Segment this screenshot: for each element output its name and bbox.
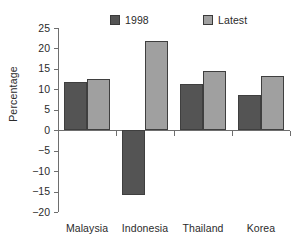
category-tick [116, 131, 117, 136]
legend-swatch-latest [203, 15, 213, 25]
category-tick [290, 131, 291, 136]
y-axis-tick-label: −20 [28, 207, 50, 218]
y-axis-line [58, 28, 59, 212]
y-axis-tick-label: −10 [28, 166, 50, 177]
bar [180, 84, 203, 130]
bar-chart: 1998 Latest Percentage 2520151050−5−10−1… [0, 0, 293, 246]
bar [238, 95, 261, 130]
legend-item-latest: Latest [203, 13, 247, 27]
y-axis-tick-label: 5 [28, 104, 50, 115]
y-axis-tick [54, 212, 58, 213]
y-axis-title: Percentage [7, 44, 19, 144]
y-axis-tick [54, 89, 58, 90]
bar [203, 71, 226, 130]
y-axis-tick-label: 20 [28, 43, 50, 54]
category-label: Malaysia [58, 222, 116, 234]
y-axis-tick-label: −5 [28, 145, 50, 156]
category-tick [174, 131, 175, 136]
y-axis-tick [54, 28, 58, 29]
bar [64, 82, 87, 130]
category-label: Indonesia [116, 222, 174, 234]
legend-swatch-1998 [110, 15, 120, 25]
plot-area: 2520151050−5−10−15−20 [58, 28, 290, 212]
y-axis-tick-label: 25 [28, 23, 50, 34]
y-axis-tick [54, 69, 58, 70]
category-tick [232, 131, 233, 136]
y-axis-tick-label: −15 [28, 186, 50, 197]
category-label: Korea [232, 222, 290, 234]
y-axis-tick [54, 151, 58, 152]
category-label: Thailand [174, 222, 232, 234]
bar [122, 130, 145, 195]
y-axis-tick [54, 48, 58, 49]
y-axis-tick-label: 0 [28, 125, 50, 136]
y-axis-tick [54, 171, 58, 172]
bar [261, 76, 284, 130]
y-axis-tick [54, 110, 58, 111]
y-axis-tick [54, 192, 58, 193]
legend-item-1998: 1998 [110, 13, 149, 27]
y-axis-tick [54, 130, 58, 131]
bar [145, 41, 168, 131]
y-axis-tick-label: 10 [28, 84, 50, 95]
y-axis-tick-label: 15 [28, 63, 50, 74]
legend-label-1998: 1998 [125, 15, 149, 26]
legend-label-latest: Latest [218, 15, 247, 26]
bar [87, 79, 110, 130]
